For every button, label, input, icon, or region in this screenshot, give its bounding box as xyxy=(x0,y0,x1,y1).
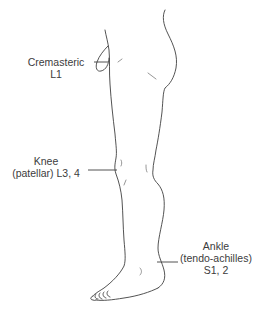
ankle-reflex-label: Ankle (tendo-achilles) S1, 2 xyxy=(176,240,256,276)
knee-level: (patellar) L3, 4 xyxy=(2,167,90,179)
scrotum-outline xyxy=(96,46,109,71)
leg-reflex-diagram: Cremasteric L1 Knee (patellar) L3, 4 Ank… xyxy=(0,0,256,310)
thigh-crease-mark xyxy=(148,73,156,79)
ankle-name: Ankle xyxy=(176,240,256,252)
leg-back-outline xyxy=(153,10,177,288)
patella-mark xyxy=(121,160,122,166)
cremasteric-reflex-label: Cremasteric L1 xyxy=(14,56,98,80)
cremasteric-name: Cremasteric xyxy=(14,56,98,68)
knee-reflex-label: Knee (patellar) L3, 4 xyxy=(2,155,90,179)
foot-sole xyxy=(96,288,158,300)
ankle-malleolus-mark xyxy=(140,268,142,275)
ankle-level: S1, 2 xyxy=(176,264,256,276)
cremasteric-level: L1 xyxy=(14,68,98,80)
knee-name: Knee xyxy=(2,155,90,167)
ankle-qualifier: (tendo-achilles) xyxy=(176,252,256,264)
tibia-mark xyxy=(124,180,126,185)
hip-crease-mark xyxy=(118,59,122,62)
knee-medial-mark xyxy=(146,165,147,172)
